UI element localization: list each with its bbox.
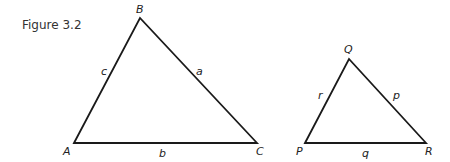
- similar-triangles-diagram: B A C c a b Q P R r p q: [0, 0, 450, 162]
- side-label-r: r: [318, 89, 324, 102]
- vertex-label-b: B: [136, 3, 144, 16]
- side-label-q: q: [362, 147, 369, 160]
- vertex-label-c: C: [256, 145, 264, 158]
- vertex-label-r: R: [425, 145, 433, 158]
- vertex-label-a: A: [62, 145, 71, 158]
- side-label-c: c: [101, 65, 107, 78]
- side-label-p: p: [392, 89, 400, 102]
- vertex-label-p: P: [296, 145, 303, 158]
- vertex-label-q: Q: [344, 43, 353, 56]
- triangle-pqr: Q P R r p q: [296, 43, 433, 160]
- side-label-a: a: [196, 65, 203, 78]
- triangle-abc: B A C c a b: [62, 3, 264, 160]
- side-label-b: b: [159, 147, 166, 160]
